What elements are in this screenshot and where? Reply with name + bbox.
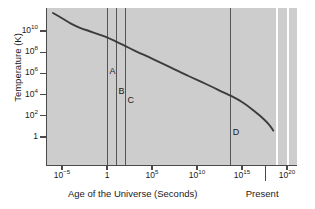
present-annotation-label: Present [246, 188, 279, 199]
y-axis-title: Temperature (K) [12, 13, 23, 123]
x-axis-title: Age of the Universe (Seconds) [68, 188, 197, 199]
temperature-vs-age-chart: 10101081061041021 10−51105101010151020 A… [0, 0, 315, 209]
temperature-curve [0, 0, 315, 209]
